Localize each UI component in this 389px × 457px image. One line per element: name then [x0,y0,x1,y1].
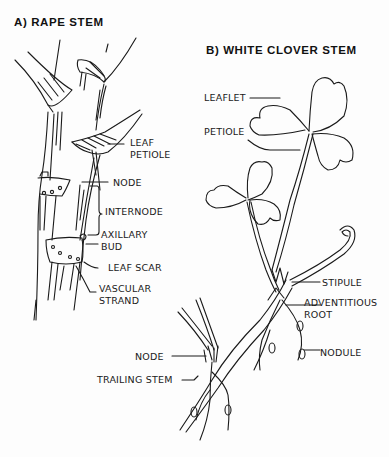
label-bud: BUD [101,241,122,252]
label-internode: INTERNODE [105,206,163,217]
white-clover-drawing [172,78,355,440]
label-vascular: VASCULAR [99,283,151,294]
diagram-canvas: A) RAPE STEM LEAF PETIOLE NODE INTERNODE… [0,0,389,457]
label-node-a: NODE [113,177,142,188]
label-axillary: AXILLARY [101,229,148,240]
label-nodule: NODULE [320,347,361,358]
panel-a-title: A) RAPE STEM [14,16,104,28]
panel-b-title: B) WHITE CLOVER STEM [206,44,357,56]
label-leaf-scar: LEAF SCAR [108,262,162,273]
label-strand: STRAND [99,295,139,306]
label-node-b: NODE [135,351,164,362]
label-adventitious: ADVENTITIOUS [304,297,377,308]
label-petiole-a: PETIOLE [130,149,171,160]
label-trailing-stem: TRAILING STEM [97,374,173,385]
label-root: ROOT [304,309,332,320]
label-leaflet: LEAFLET [204,92,246,103]
label-petiole-b: PETIOLE [204,126,245,137]
label-leaf: LEAF [130,137,154,148]
label-stipule: STIPULE [322,277,362,288]
line-art [0,0,389,457]
